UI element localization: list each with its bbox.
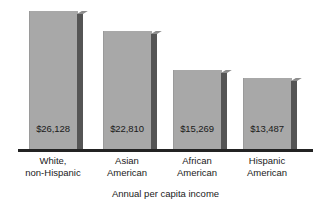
x-axis-line: [18, 149, 313, 152]
x-axis-title: Annual per capita income: [0, 188, 331, 199]
category-label-white-non-hispanic: White, non-Hispanic: [13, 155, 93, 178]
category-label-hispanic-american: Hispanic American: [227, 155, 307, 178]
bar-side-face: [291, 81, 297, 150]
category-label-line1: White,: [13, 155, 93, 167]
category-label-line2: non-Hispanic: [13, 167, 93, 179]
bar-hispanic-american[interactable]: $13,487: [243, 78, 291, 150]
category-label-line2: American: [87, 167, 167, 179]
bar-front-face: [243, 78, 292, 150]
category-label-line1: Asian: [87, 155, 167, 167]
bar-side-face: [77, 14, 83, 150]
bar-front-face: [173, 70, 222, 150]
category-label-line1: Hispanic: [227, 155, 307, 167]
category-label-line1: African: [157, 155, 237, 167]
bar-african-american[interactable]: $15,269: [173, 70, 221, 150]
bar-value-label: $13,487: [243, 123, 291, 134]
category-label-asian-american: Asian American: [87, 155, 167, 178]
category-label-african-american: African American: [157, 155, 237, 178]
plot-area: $26,128 $22,810 $15,269 $13,487: [0, 0, 331, 152]
bar-value-label: $15,269: [173, 123, 221, 134]
bar-value-label: $26,128: [29, 123, 77, 134]
bar-side-face: [221, 73, 227, 150]
bar-white-non-hispanic[interactable]: $26,128: [29, 11, 77, 150]
bar-value-label: $22,810: [103, 123, 151, 134]
category-label-line2: American: [227, 167, 307, 179]
category-label-line2: American: [157, 167, 237, 179]
bar-side-face: [151, 34, 157, 150]
bar-asian-american[interactable]: $22,810: [103, 31, 151, 150]
bar-chart: $26,128 $22,810 $15,269 $13,487 White, n…: [0, 0, 331, 207]
